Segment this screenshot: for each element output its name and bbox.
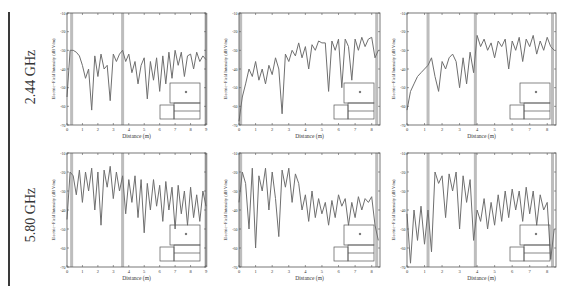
x-tick-label: 3 — [288, 269, 291, 274]
x-tick-label: 0 — [406, 127, 409, 132]
y-tick-label: -60 — [400, 104, 405, 109]
x-tick-label: 4 — [128, 127, 131, 132]
x-tick-label: 7 — [529, 269, 532, 274]
field-intensity-trace — [239, 37, 378, 121]
chart-5-80ghz-scenario-3: 012345678-10-20-30-40-50-60-70Distance (… — [390, 148, 560, 284]
floor-plan-inset — [160, 225, 200, 261]
x-tick-label: 6 — [337, 269, 340, 274]
x-tick-label: 0 — [66, 127, 69, 132]
row-label-2-44-ghz: 2.44 GHz — [14, 12, 48, 142]
y-tick-label: -60 — [400, 246, 405, 251]
x-tick-label: 4 — [128, 269, 131, 274]
row-label-text: 2.44 GHz — [23, 50, 39, 104]
y-tick-label: -50 — [400, 85, 405, 90]
y-tick-label: -10 — [232, 11, 237, 16]
chart-5-80ghz-scenario-1: 0123456789-10-20-30-40-50-60-70Distance … — [50, 148, 210, 284]
x-tick-label: 3 — [458, 269, 461, 274]
x-tick-label: 7 — [174, 127, 177, 132]
x-tick-label: 8 — [546, 127, 549, 132]
y-axis-label: Electric−Field Intensity (dB V/m) — [51, 38, 56, 100]
y-tick-label: -20 — [400, 29, 405, 34]
x-tick-label: 5 — [143, 269, 146, 274]
plot-area-frame — [239, 13, 380, 125]
x-tick-label: 2 — [271, 269, 273, 274]
x-tick-label: 8 — [189, 269, 192, 274]
x-tick-label: 5 — [321, 127, 324, 132]
y-tick-label: -10 — [400, 11, 405, 16]
y-tick-label: -70 — [60, 265, 65, 270]
x-tick-label: 8 — [546, 269, 549, 274]
x-tick-label: 8 — [371, 127, 374, 132]
x-tick-label: 2 — [97, 127, 99, 132]
x-tick-label: 5 — [143, 127, 146, 132]
y-axis-label: Electric−Field Intensity (dB V/m) — [223, 179, 228, 241]
y-tick-label: -40 — [400, 208, 405, 213]
x-tick-label: 6 — [159, 269, 162, 274]
row-divider-line — [8, 12, 10, 286]
x-tick-label: 0 — [238, 127, 241, 132]
x-axis-label: Distance (m) — [122, 275, 151, 282]
y-tick-label: -20 — [232, 170, 237, 175]
x-tick-label: 0 — [66, 269, 69, 274]
chart-5-80ghz-scenario-2: 012345678-10-20-30-40-50-60-70Distance (… — [222, 148, 384, 284]
x-tick-label: 7 — [174, 269, 177, 274]
chart-2-44ghz-scenario-3: 012345678-10-20-30-40-50-60-70Distance (… — [390, 8, 560, 142]
x-tick-label: 7 — [529, 127, 532, 132]
x-axis-label: Distance (m) — [467, 133, 496, 140]
position-marker-band — [121, 13, 124, 125]
y-tick-label: -40 — [60, 67, 65, 72]
x-tick-label: 3 — [458, 127, 461, 132]
y-tick-label: -30 — [400, 48, 405, 53]
plot-area-frame — [67, 153, 206, 267]
y-tick-label: -60 — [232, 104, 237, 109]
y-tick-label: -20 — [60, 170, 65, 175]
x-tick-label: 1 — [423, 127, 425, 132]
x-axis-label: Distance (m) — [295, 133, 324, 140]
x-tick-label: 4 — [304, 269, 307, 274]
y-tick-label: -30 — [232, 48, 237, 53]
y-tick-label: -70 — [400, 265, 405, 270]
y-tick-label: -20 — [232, 29, 237, 34]
y-axis-label: Electric−Field Intensity (dB V/m) — [51, 179, 56, 241]
y-tick-label: -20 — [60, 29, 65, 34]
x-tick-label: 6 — [511, 269, 514, 274]
x-tick-label: 7 — [354, 269, 357, 274]
x-axis-label: Distance (m) — [295, 275, 324, 282]
floor-plan-inset — [160, 83, 200, 119]
y-tick-label: -50 — [232, 227, 237, 232]
y-tick-label: -50 — [232, 85, 237, 90]
field-intensity-trace — [67, 166, 206, 233]
x-tick-label: 2 — [97, 269, 99, 274]
y-tick-label: -10 — [232, 151, 237, 156]
floor-plan-inset — [510, 225, 550, 261]
y-tick-label: -60 — [60, 246, 65, 251]
x-tick-label: 2 — [441, 269, 443, 274]
y-axis-label: Electric−Field Intensity (dB V/m) — [223, 38, 228, 100]
x-tick-label: 4 — [476, 127, 479, 132]
y-tick-label: -60 — [60, 104, 65, 109]
y-tick-label: -10 — [60, 151, 65, 156]
chart-2-44ghz-scenario-2: 012345678-10-20-30-40-50-60-70Distance (… — [222, 8, 384, 142]
x-tick-label: 0 — [406, 269, 409, 274]
position-marker-band — [70, 13, 73, 125]
x-tick-label: 6 — [511, 127, 514, 132]
x-tick-label: 3 — [112, 269, 115, 274]
y-tick-label: -70 — [400, 123, 405, 128]
x-tick-label: 5 — [321, 269, 324, 274]
position-marker-band — [551, 13, 554, 125]
x-axis-label: Distance (m) — [467, 275, 496, 282]
y-tick-label: -30 — [60, 189, 65, 194]
y-tick-label: -40 — [60, 208, 65, 213]
floor-plan-inset — [334, 225, 374, 261]
position-marker-band — [121, 153, 124, 267]
y-tick-label: -40 — [400, 67, 405, 72]
x-tick-label: 6 — [159, 127, 162, 132]
position-marker-band — [375, 13, 378, 125]
x-tick-label: 7 — [354, 127, 357, 132]
y-tick-label: -50 — [60, 227, 65, 232]
x-tick-label: 4 — [304, 127, 307, 132]
row-label-text: 5.80 GHz — [23, 188, 39, 242]
y-axis-label: Electric−Field Intensity (dB V/m) — [391, 38, 396, 100]
x-axis-label: Distance (m) — [122, 133, 151, 140]
x-tick-label: 2 — [271, 127, 273, 132]
